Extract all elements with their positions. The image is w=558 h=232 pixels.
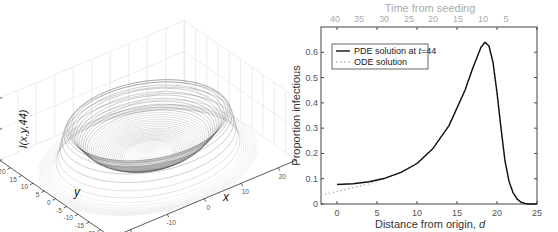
y-tick-label: 0.4: [305, 98, 318, 108]
y-tick-label: 0: [313, 199, 318, 209]
legend-ode-label: ODE solution: [354, 57, 407, 67]
y-tick-label: 0.6: [305, 47, 318, 57]
top-tick-label: 15: [453, 14, 463, 24]
top-tick-label: 35: [354, 14, 364, 24]
x-tick-label: 20: [492, 208, 502, 218]
top-tick-label: 5: [503, 14, 508, 24]
y-tick-label: 0.5: [305, 73, 318, 83]
y-tick-label: 0.1: [305, 174, 318, 184]
legend-pde-label: PDE solution at t=44: [354, 46, 436, 56]
y-axis-title: Proportion infectious: [290, 65, 302, 166]
y-tick-label: 0.3: [305, 123, 318, 133]
legend: PDE solution at t=44ODE solution: [332, 44, 436, 69]
top-tick-label: 40: [330, 14, 340, 24]
top-tick-label: 25: [404, 14, 414, 24]
line-chart: 051015202500.10.20.30.40.50.640353025201…: [0, 0, 558, 232]
x-tick-label: 10: [412, 208, 422, 218]
y-tick-label: 0.2: [305, 148, 318, 158]
x-tick-label: 0: [334, 208, 339, 218]
top-tick-label: 10: [478, 14, 488, 24]
x-tick-label: 25: [532, 208, 542, 218]
top-axis-title: Time from seeding: [385, 2, 476, 14]
x-tick-label: 15: [452, 208, 462, 218]
x-axis-title: Distance from origin, d: [375, 218, 486, 230]
x-tick-label: 5: [374, 208, 379, 218]
top-tick-label: 20: [428, 14, 438, 24]
top-tick-label: 30: [379, 14, 389, 24]
